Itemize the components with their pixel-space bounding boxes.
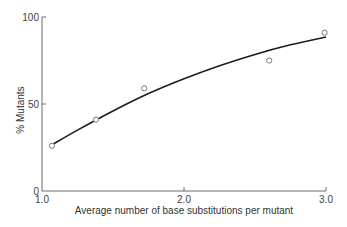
y-axis-label: % Mutants — [15, 86, 26, 133]
data-point — [93, 117, 98, 122]
x-ticks: 1.02.03.0 — [35, 187, 333, 205]
data-points — [49, 30, 327, 148]
y-tick-label: 100 — [22, 12, 39, 23]
x-tick-label: 3.0 — [319, 194, 333, 205]
data-point — [49, 143, 54, 148]
x-tick-label: 2.0 — [177, 194, 191, 205]
y-tick-label: 50 — [28, 99, 40, 110]
data-point — [322, 30, 327, 35]
x-axis-label: Average number of base substitutions per… — [75, 205, 293, 216]
fitted-curve-line — [53, 37, 326, 144]
chart: 050100 1.02.03.0 % Mutants Average numbe… — [0, 0, 347, 227]
data-point — [142, 86, 147, 91]
data-point — [267, 58, 272, 63]
x-tick-label: 1.0 — [35, 194, 49, 205]
axes: 050100 1.02.03.0 — [22, 12, 333, 206]
